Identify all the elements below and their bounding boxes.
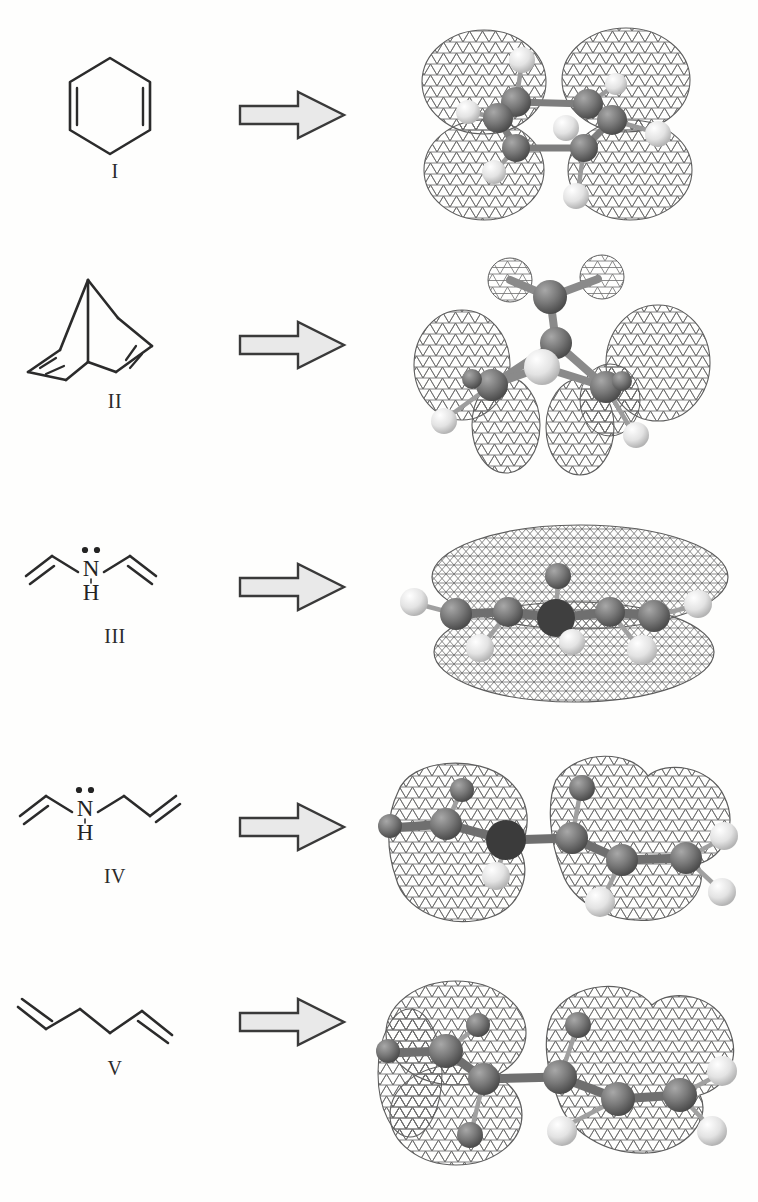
block-arrow-right-icon [232,310,352,380]
arrow-cell-3 [232,552,352,622]
molecular-orbital-render-5 [380,953,758,1202]
arrow-cell-4 [232,792,352,862]
structure-cell-4: N H IV [0,762,230,932]
mo-cell-4 [380,732,740,962]
mo-cell-3 [398,502,758,732]
structure-drawing-norbornadiene [0,250,230,400]
block-arrow-right-icon [232,792,352,862]
structure-label-4: IV [0,865,230,888]
molecular-orbital-render-1 [398,20,758,235]
lone-pair-dot [94,547,100,553]
structure-cell-2: II [0,250,230,430]
structure-label-3: III [0,625,230,648]
structure-cell-3: N H III [0,520,230,690]
structure-cell-5: V [0,965,230,1125]
structure-label-1: I [0,160,230,183]
mo-cell-1 [398,20,758,235]
arrow-cell-1 [232,80,352,150]
nitrogen-label: N [77,796,94,821]
structure-cell-1: I [0,20,230,190]
block-arrow-right-icon [232,80,352,150]
scheme-row-4: N H IV [0,762,758,962]
scheme-row-3: N H III [0,520,758,720]
structure-label-2: II [0,390,230,413]
mo-cell-5 [380,953,740,1202]
figure-root: I [0,0,758,1202]
arrow-cell-5 [232,987,352,1057]
molecular-orbital-render-4 [380,732,758,962]
block-arrow-right-icon [232,987,352,1057]
block-arrow-right-icon [232,552,352,622]
nitrogen-label: N [83,556,100,581]
lone-pair-dot [88,787,94,793]
scheme-row-1: I [0,20,758,230]
structure-label-5: V [0,1057,230,1080]
molecular-orbital-render-2 [410,235,758,485]
molecular-orbital-render-3 [398,502,758,732]
lone-pair-dot [82,547,88,553]
arrow-cell-2 [232,310,352,380]
scheme-row-5: V [0,965,758,1200]
lone-pair-dot [76,787,82,793]
structure-drawing-cyclohexadiene [0,20,230,180]
scheme-row-2: II [0,250,758,490]
mo-cell-2 [410,235,758,485]
